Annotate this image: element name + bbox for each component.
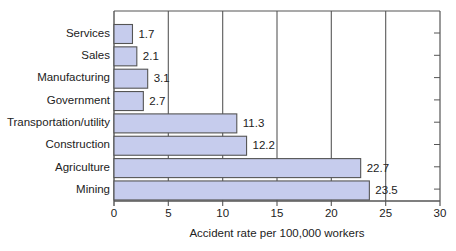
category-label: Construction: [45, 138, 110, 150]
value-label: 2.1: [143, 50, 159, 62]
bar-sales: [114, 47, 137, 66]
x-tick-label: 0: [111, 207, 117, 219]
x-tick-label: 20: [325, 207, 338, 219]
bar-construction: [114, 136, 247, 155]
x-tick-label: 5: [165, 207, 171, 219]
category-label: Services: [66, 27, 110, 39]
value-label: 3.1: [154, 72, 170, 84]
bar-transportation-utility: [114, 114, 237, 133]
x-tick-label: 10: [216, 207, 229, 219]
x-tick-label: 25: [379, 207, 392, 219]
category-label: Government: [47, 94, 110, 106]
category-label: Mining: [76, 183, 110, 195]
x-tick-label: 30: [434, 207, 447, 219]
category-label: Sales: [81, 49, 110, 61]
value-label: 22.7: [367, 162, 389, 174]
x-axis-label: Accident rate per 100,000 workers: [189, 227, 364, 239]
bar-agriculture: [114, 159, 361, 178]
category-label: Manufacturing: [37, 71, 110, 83]
x-tick-label: 15: [271, 207, 284, 219]
bar-chart: Services1.7Sales2.1Manufacturing3.1Gover…: [0, 0, 456, 251]
bar-government: [114, 92, 143, 111]
value-label: 23.5: [375, 184, 397, 196]
value-label: 12.2: [253, 139, 275, 151]
value-label: 2.7: [149, 95, 165, 107]
category-label: Transportation/utility: [7, 116, 110, 128]
value-label: 11.3: [243, 117, 265, 129]
bar-mining: [114, 181, 369, 200]
bar-services: [114, 25, 132, 44]
bar-manufacturing: [114, 69, 148, 88]
category-label: Agriculture: [55, 161, 110, 173]
value-label: 1.7: [138, 28, 154, 40]
